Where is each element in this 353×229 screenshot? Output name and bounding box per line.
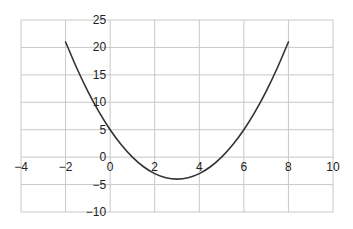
parabola-chart: −10−50510152025 −4−20246810 xyxy=(0,0,353,229)
x-tick-label: 10 xyxy=(326,160,340,174)
x-tick-label: 8 xyxy=(285,160,292,174)
y-tick-label: 10 xyxy=(93,95,107,109)
x-tick-label: 6 xyxy=(241,160,248,174)
y-tick-label: 0 xyxy=(99,150,106,164)
y-tick-label: −10 xyxy=(86,205,107,219)
y-axis-tick-labels: −10−50510152025 xyxy=(86,13,107,219)
x-tick-label: 0 xyxy=(107,160,114,174)
y-tick-label: 20 xyxy=(93,40,107,54)
x-tick-label: −4 xyxy=(14,160,28,174)
y-tick-label: 15 xyxy=(93,68,107,82)
x-axis-tick-labels: −4−20246810 xyxy=(14,160,340,174)
y-tick-label: −5 xyxy=(92,178,106,192)
y-tick-label: 5 xyxy=(99,123,106,137)
y-tick-label: 25 xyxy=(93,13,107,27)
x-tick-label: −2 xyxy=(59,160,73,174)
